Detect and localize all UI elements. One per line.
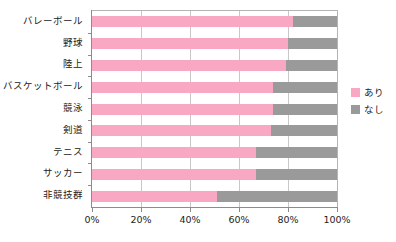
x-axis-tick xyxy=(288,208,289,212)
x-axis-tick xyxy=(190,208,191,212)
x-axis-tick xyxy=(239,208,240,212)
bar-segment-nashi xyxy=(273,104,337,115)
x-axis-tick-label: 0% xyxy=(84,214,99,225)
legend-item: なし xyxy=(351,102,395,116)
category-label: 陸上 xyxy=(63,58,83,70)
bar-row xyxy=(92,16,337,27)
bar-segment-ari xyxy=(92,169,256,180)
bar-segment-nashi xyxy=(293,16,337,27)
bar-row xyxy=(92,60,337,71)
y-axis-category-labels: バレーボール野球陸上バスケットボール競泳剣道テニスサッカー非競技群 xyxy=(0,10,88,206)
bar-segment-ari xyxy=(92,16,293,27)
bar-row xyxy=(92,125,337,136)
legend-label: あり xyxy=(364,85,384,99)
category-label: 野球 xyxy=(63,37,83,49)
bar-segment-nashi xyxy=(256,147,337,158)
bar-segment-ari xyxy=(92,104,273,115)
x-axis-tick xyxy=(141,208,142,212)
y-axis-tick xyxy=(88,185,92,186)
x-axis-tick-label: 20% xyxy=(130,214,151,225)
category-label: サッカー xyxy=(43,167,83,179)
stacked-bar-chart: バレーボール野球陸上バスケットボール競泳剣道テニスサッカー非競技群 0%20%4… xyxy=(0,0,396,242)
bar-row xyxy=(92,38,337,49)
bar-segment-ari xyxy=(92,147,256,158)
chart-legend: ありなし xyxy=(351,85,395,119)
bar-segment-nashi xyxy=(273,82,337,93)
bar-segment-nashi xyxy=(286,60,337,71)
bar-row xyxy=(92,147,337,158)
bar-row xyxy=(92,191,337,202)
bar-segment-ari xyxy=(92,82,273,93)
legend-swatch-icon xyxy=(351,105,360,114)
y-axis-tick xyxy=(88,163,92,164)
bar-segment-nashi xyxy=(256,169,337,180)
y-axis-tick xyxy=(88,142,92,143)
bar-segment-nashi xyxy=(288,38,337,49)
legend-label: なし xyxy=(364,102,384,116)
bar-segment-nashi xyxy=(271,125,337,136)
category-label: バレーボール xyxy=(23,15,83,27)
category-label: テニス xyxy=(53,146,83,158)
y-axis-tick xyxy=(88,120,92,121)
x-axis-tick xyxy=(92,208,93,212)
bar-row xyxy=(92,82,337,93)
y-axis-tick xyxy=(88,98,92,99)
x-axis-tick-label: 60% xyxy=(228,214,249,225)
y-axis-tick xyxy=(88,33,92,34)
bar-row xyxy=(92,104,337,115)
bar-segment-nashi xyxy=(217,191,337,202)
legend-item: あり xyxy=(351,85,395,99)
x-axis-tick xyxy=(337,208,338,212)
y-axis-tick xyxy=(88,55,92,56)
x-axis-tick-label: 80% xyxy=(277,214,298,225)
legend-swatch-icon xyxy=(351,88,360,97)
bar-segment-ari xyxy=(92,38,288,49)
bar-segment-ari xyxy=(92,125,271,136)
y-axis-tick xyxy=(88,76,92,77)
category-label: 非競技群 xyxy=(43,189,83,201)
x-axis-tick-label: 40% xyxy=(179,214,200,225)
x-axis-line xyxy=(91,207,338,208)
x-axis-tick-label: 100% xyxy=(323,214,350,225)
bar-row xyxy=(92,169,337,180)
category-label: 競泳 xyxy=(63,102,83,114)
category-label: 剣道 xyxy=(63,124,83,136)
category-label: バスケットボール xyxy=(3,80,83,92)
bar-segment-ari xyxy=(92,191,217,202)
bar-segment-ari xyxy=(92,60,286,71)
plot-area: 0%20%40%60%80%100% xyxy=(92,10,338,207)
